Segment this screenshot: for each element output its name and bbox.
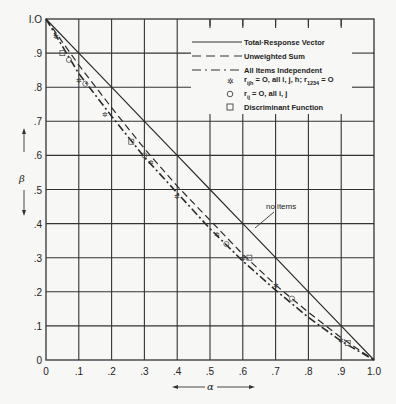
no-items-leader — [255, 212, 274, 228]
alpha-beta-chart: ✲✲✲✲✲✲✲✲✲ 0.1.2.3.4.5.6.7.8.91.0 0.1.2.3… — [0, 0, 396, 404]
x-tick-label: .1 — [75, 366, 84, 377]
y-tick-label: .3 — [34, 253, 43, 264]
circle-marker-icon — [289, 296, 294, 301]
x-tick-label: 0 — [43, 366, 49, 377]
beta-symbol: β — [18, 173, 25, 184]
x-axis-label: α — [172, 381, 255, 392]
star-marker-icon: ✲ — [102, 111, 108, 118]
star-icon: ✲ — [227, 77, 234, 86]
star-marker-icon: ✲ — [76, 77, 82, 84]
down-arrowhead-icon — [22, 210, 26, 216]
y-tick-label: .8 — [34, 82, 43, 93]
left-arrowhead-icon — [172, 385, 178, 389]
legend-label-discriminant-function: Discriminant Function — [244, 103, 324, 112]
alpha-symbol: α — [207, 381, 214, 392]
legend-label-total-response: Total·Response Vector — [244, 38, 325, 47]
right-arrowhead-icon — [249, 385, 255, 389]
legend-label-all-items-independent: All Items Independent — [244, 66, 322, 75]
star-marker-icon: ✲ — [338, 337, 344, 344]
x-tick-label: .3 — [140, 366, 149, 377]
circle-marker-icon — [66, 57, 71, 62]
star-marker-icon: ✲ — [214, 231, 220, 238]
y-tick-label: .7 — [34, 116, 43, 127]
y-tick-label: .5 — [34, 185, 43, 196]
star-marker-icon: ✲ — [273, 282, 279, 289]
y-axis-label: β — [18, 128, 26, 216]
y-tick-label: I.O — [29, 14, 43, 25]
y-tick-label: 0 — [36, 355, 42, 366]
y-tick-label: .1 — [34, 321, 43, 332]
no-items-label: no items — [266, 202, 296, 211]
y-tick-label: .9 — [34, 48, 43, 59]
y-tick-label: .2 — [34, 287, 43, 298]
x-tick-labels: 0.1.2.3.4.5.6.7.8.91.0 — [43, 366, 381, 377]
star-marker-icon: ✲ — [53, 33, 59, 40]
y-tick-label: .6 — [34, 150, 43, 161]
star-marker-icon: ✲ — [148, 159, 154, 166]
x-tick-label: .5 — [206, 366, 215, 377]
star-marker-icon: ✲ — [240, 255, 246, 262]
y-tick-label: .4 — [34, 219, 43, 230]
x-tick-label: .9 — [337, 366, 346, 377]
x-tick-label: .7 — [271, 366, 280, 377]
star-marker-icon: ✲ — [174, 193, 180, 200]
x-tick-label: .6 — [239, 366, 248, 377]
x-tick-label: .4 — [173, 366, 182, 377]
x-tick-label: .8 — [304, 366, 313, 377]
up-arrowhead-icon — [22, 128, 26, 134]
y-tick-labels: 0.1.2.3.4.5.6.7.8.9I.O — [29, 14, 43, 366]
x-tick-label: 1.0 — [367, 366, 381, 377]
x-tick-label: .2 — [107, 366, 116, 377]
legend-label-unweighted-sum: Unweighted Sum — [244, 52, 305, 61]
